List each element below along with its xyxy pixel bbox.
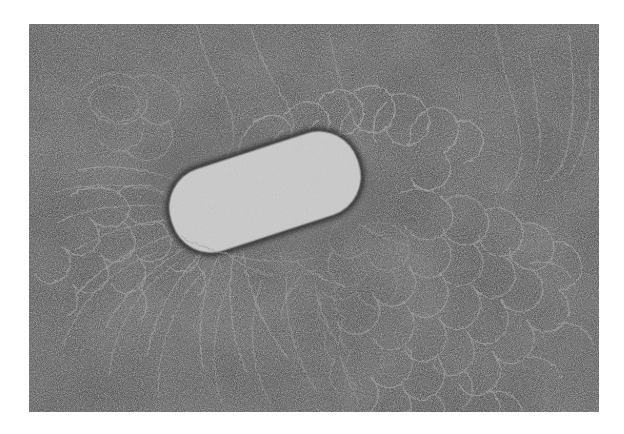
plate-content (29, 24, 599, 412)
micrograph-plate (29, 24, 599, 412)
micrograph-canvas (29, 24, 599, 412)
plate-tone-overlay (29, 24, 599, 412)
micrograph-page (0, 0, 624, 434)
